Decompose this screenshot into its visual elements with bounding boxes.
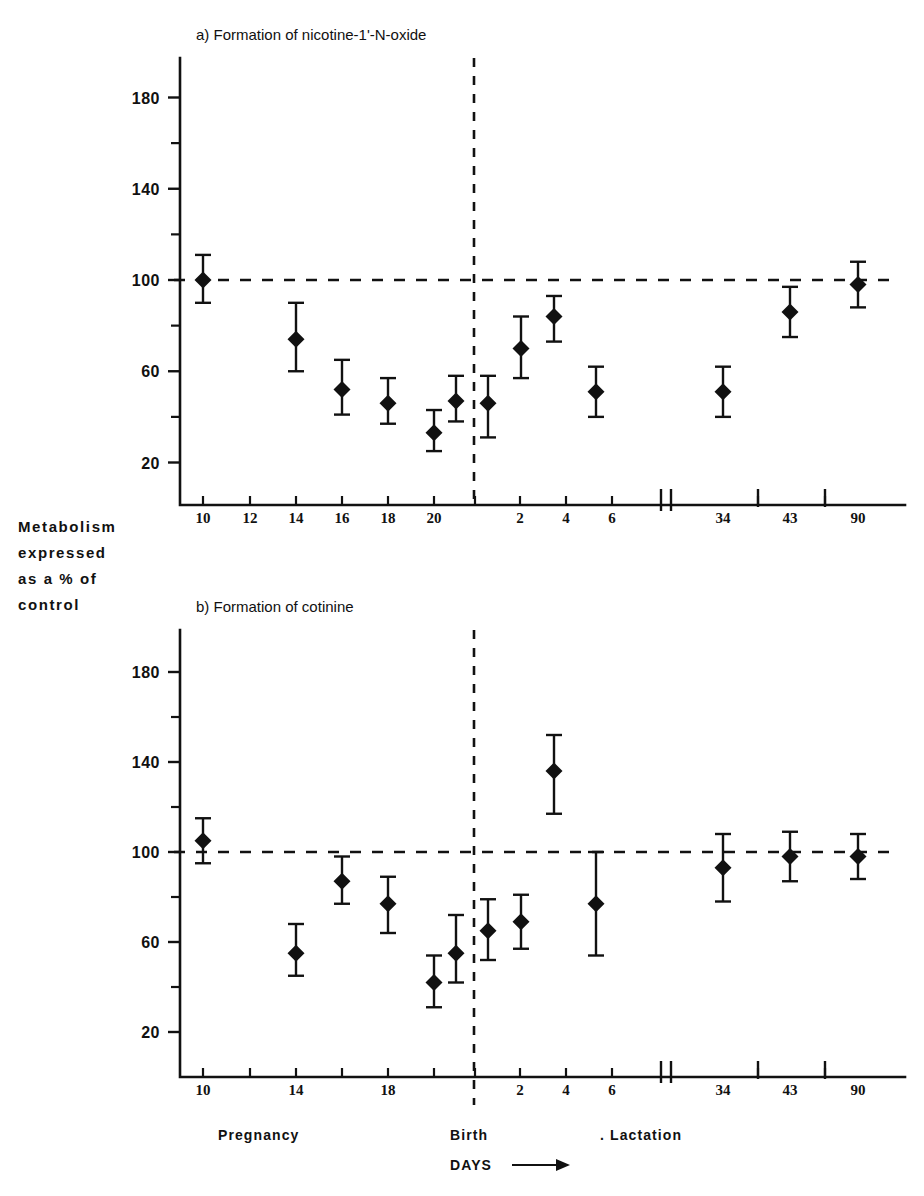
data-point-b-3 <box>546 735 563 814</box>
right-arrow-icon <box>556 1159 570 1171</box>
figure-root: a) Formation of nicotine-1'-N-oxide20601… <box>0 0 924 1196</box>
x-tick-label-a-90: 90 <box>851 510 866 526</box>
x-tick-label-a-2: 2 <box>516 510 524 526</box>
y-tick-label-b-60: 60 <box>141 934 160 951</box>
diamond-marker <box>715 859 732 876</box>
diamond-marker <box>513 340 530 357</box>
data-point-a-34 <box>715 367 732 417</box>
diamond-marker <box>480 395 497 412</box>
diamond-marker <box>588 895 605 912</box>
x-tick-label-a-4: 4 <box>562 510 570 526</box>
y-tick-label-a-140: 140 <box>132 181 160 198</box>
x-tick-label-b-43: 43 <box>783 1082 798 1098</box>
chart-panel-a: a) Formation of nicotine-1'-N-oxide20601… <box>132 26 905 526</box>
diamond-marker <box>426 424 443 441</box>
y-axis-label-line-0: Metabolism <box>18 518 117 535</box>
diamond-marker <box>334 873 351 890</box>
diamond-marker <box>546 308 563 325</box>
data-point-b-43 <box>782 832 799 882</box>
y-tick-label-a-20: 20 <box>141 455 160 472</box>
period-label-pregnancy: Pregnancy <box>218 1127 300 1143</box>
x-tick-label-b-90: 90 <box>851 1082 866 1098</box>
data-point-b-21 <box>448 915 465 983</box>
data-point-b-10 <box>195 818 212 863</box>
y-tick-label-b-20: 20 <box>141 1024 160 1041</box>
diamond-marker <box>850 848 867 865</box>
diamond-marker <box>588 383 605 400</box>
x-tick-label-a-34: 34 <box>716 510 732 526</box>
diamond-marker <box>850 276 867 293</box>
data-point-b-34 <box>715 834 732 902</box>
data-point-a-20 <box>426 410 443 451</box>
diamond-marker <box>448 945 465 962</box>
chart-panel-b: b) Formation of cotinine2060100140180101… <box>132 598 905 1105</box>
x-tick-label-b-10: 10 <box>196 1082 211 1098</box>
diamond-marker <box>513 913 530 930</box>
diamond-marker <box>288 945 305 962</box>
x-tick-label-a-10: 10 <box>196 510 211 526</box>
data-point-b-1 <box>480 899 497 960</box>
y-tick-label-a-60: 60 <box>141 363 160 380</box>
axis-lines-a <box>180 58 905 505</box>
data-point-a-21 <box>448 376 465 422</box>
x-tick-label-b-6: 6 <box>608 1082 616 1098</box>
diamond-marker <box>288 331 305 348</box>
x-axis-label: DAYS <box>450 1157 492 1173</box>
diamond-marker <box>715 383 732 400</box>
x-tick-label-a-6: 6 <box>608 510 616 526</box>
diamond-marker <box>782 303 799 320</box>
axis-lines-b <box>180 630 905 1077</box>
x-tick-label-a-43: 43 <box>783 510 798 526</box>
diamond-marker <box>334 381 351 398</box>
data-point-b-5 <box>588 852 605 956</box>
data-point-b-18 <box>380 877 397 933</box>
data-point-a-90 <box>850 262 867 308</box>
diamond-marker <box>480 922 497 939</box>
x-tick-label-b-18: 18 <box>381 1082 396 1098</box>
data-point-a-14 <box>288 303 305 371</box>
figure-annotations: Metabolismexpressedas a % ofcontrolPregn… <box>18 518 682 1173</box>
y-tick-label-a-180: 180 <box>132 90 160 107</box>
y-tick-label-b-140: 140 <box>132 754 160 771</box>
diamond-marker <box>380 895 397 912</box>
period-label-lactation: . Lactation <box>600 1127 682 1143</box>
period-label-birth: Birth <box>450 1127 488 1143</box>
y-tick-label-b-180: 180 <box>132 664 160 681</box>
diamond-marker <box>195 832 212 849</box>
data-point-a-1 <box>480 376 497 438</box>
data-point-b-16 <box>334 857 351 904</box>
data-point-a-2 <box>513 317 530 379</box>
x-tick-label-a-18: 18 <box>381 510 396 526</box>
diamond-marker <box>448 392 465 409</box>
x-tick-label-b-4: 4 <box>562 1082 570 1098</box>
data-point-b-90 <box>850 834 867 879</box>
x-tick-label-a-14: 14 <box>289 510 305 526</box>
diamond-marker <box>195 272 212 289</box>
y-axis-label-line-3: control <box>18 596 80 613</box>
x-tick-label-a-16: 16 <box>335 510 351 526</box>
data-point-a-18 <box>380 378 397 424</box>
data-point-b-14 <box>288 924 305 976</box>
data-point-b-2 <box>513 895 530 949</box>
y-axis-label-line-1: expressed <box>18 544 107 561</box>
x-tick-label-a-20: 20 <box>427 510 442 526</box>
x-tick-label-b-34: 34 <box>716 1082 732 1098</box>
y-axis-label-line-2: as a % of <box>18 570 97 587</box>
data-point-a-3 <box>546 296 563 342</box>
data-point-a-5 <box>588 367 605 417</box>
x-tick-label-b-14: 14 <box>289 1082 305 1098</box>
panel-title-b: b) Formation of cotinine <box>196 598 354 615</box>
data-point-a-43 <box>782 287 799 337</box>
data-point-b-20 <box>426 956 443 1008</box>
x-tick-label-b-2: 2 <box>516 1082 524 1098</box>
diamond-marker <box>380 395 397 412</box>
y-tick-label-a-100: 100 <box>132 272 160 289</box>
diamond-marker <box>546 763 563 780</box>
x-tick-label-a-12: 12 <box>243 510 258 526</box>
y-tick-label-b-100: 100 <box>132 844 160 861</box>
diamond-marker <box>782 848 799 865</box>
data-point-a-16 <box>334 360 351 415</box>
diamond-marker <box>426 974 443 991</box>
data-point-a-10 <box>195 255 212 303</box>
panel-title-a: a) Formation of nicotine-1'-N-oxide <box>196 26 426 43</box>
